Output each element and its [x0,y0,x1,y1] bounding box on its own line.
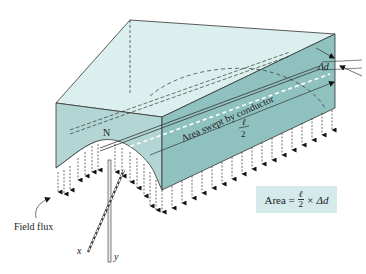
y-axis-label: y [113,251,119,262]
field-flux-pointer [36,198,50,218]
x-axis-label: x [76,245,82,256]
delta-d-arrow-bottom [340,66,362,76]
formula-denominator: 2 [298,200,303,209]
field-flux-label: Field flux [14,221,53,232]
delta-d-label: Δd [317,61,330,72]
pole-label: N [103,127,110,138]
area-formula-box: Area = ℓ 2 × Δd [256,186,337,213]
half-length-numerator: ℓ [242,117,246,127]
y-axis-conductor [108,160,111,262]
formula-lhs: Area = [264,194,294,206]
formula-rhs: × Δd [307,194,329,206]
half-length-denominator: 2 [241,129,246,139]
formula-fraction: ℓ 2 [298,190,304,209]
magnet-pole-diagram: N Area swept by conductor ℓ 2 Δd [0,0,366,274]
